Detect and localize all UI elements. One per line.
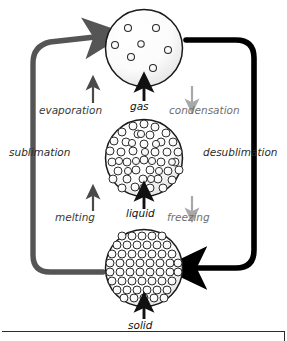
label-liquid: liquid <box>126 208 155 219</box>
label-freezing: freezing <box>167 212 210 223</box>
bottom-divider <box>2 331 285 332</box>
gas-state-circle <box>106 10 183 87</box>
label-evaporation: evaporation <box>39 105 102 116</box>
label-sublimation: sublimation <box>9 147 70 158</box>
diagram-canvas <box>0 0 287 341</box>
label-gas: gas <box>130 101 149 112</box>
solid-state-circle <box>106 230 183 307</box>
label-solid: solid <box>128 320 152 331</box>
label-melting: melting <box>55 212 95 223</box>
right-divider <box>284 331 285 341</box>
label-condensation: condensation <box>169 105 240 116</box>
label-desublimation: desublimation <box>203 147 278 158</box>
liquid-state-circle <box>106 120 184 197</box>
phase-change-diagram: evaporation gas condensation melting liq… <box>0 0 287 341</box>
